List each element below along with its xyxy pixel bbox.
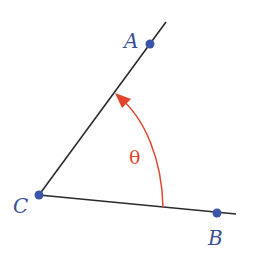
label-a: A [122,29,138,53]
ray-cb [39,195,236,214]
angle-arc [119,97,163,207]
point-c [35,191,44,200]
label-c: C [13,194,28,218]
point-a [146,40,155,49]
point-b [213,209,222,218]
angle-theta-label: θ [129,146,140,168]
ray-ca [39,22,166,195]
angle-diagram: A B C θ [0,0,256,253]
label-b: B [207,226,223,250]
